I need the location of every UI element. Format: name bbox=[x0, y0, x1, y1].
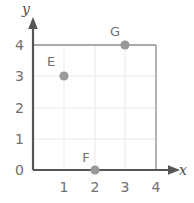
x-tick-label-1: 1 bbox=[60, 179, 69, 195]
coordinate-plane-svg: y x 0 1 2 3 4 1 2 3 4 E F G bbox=[0, 0, 194, 203]
x-tick-label-3: 3 bbox=[121, 179, 130, 195]
y-tick-label-1: 1 bbox=[15, 131, 24, 147]
y-axis-label: y bbox=[21, 1, 31, 17]
y-tick-label-2: 2 bbox=[15, 100, 24, 116]
x-tick-label-2: 2 bbox=[91, 179, 100, 195]
axes bbox=[28, 17, 180, 175]
y-tick-label-0: 0 bbox=[15, 162, 24, 178]
y-axis-arrow-icon bbox=[28, 17, 38, 29]
x-axis-label: x bbox=[179, 162, 187, 178]
x-tick-label-4: 4 bbox=[152, 179, 161, 195]
coordinate-plane-figure: y x 0 1 2 3 4 1 2 3 4 E F G bbox=[0, 0, 194, 203]
point-label-E: E bbox=[47, 54, 55, 69]
point-marker-E bbox=[59, 71, 68, 80]
y-tick-label-4: 4 bbox=[15, 37, 24, 53]
y-tick-label-3: 3 bbox=[15, 68, 24, 84]
point-label-G: G bbox=[110, 24, 120, 39]
point-label-F: F bbox=[82, 150, 89, 165]
point-marker-G bbox=[120, 40, 129, 49]
data-point-G: G bbox=[110, 24, 130, 50]
point-marker-F bbox=[90, 165, 99, 174]
